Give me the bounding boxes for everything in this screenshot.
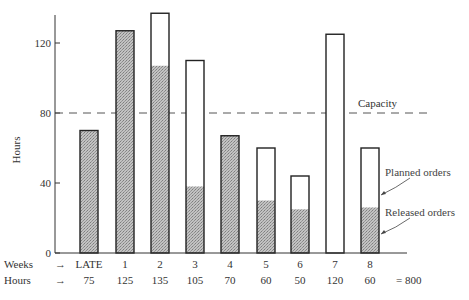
bar-week-7	[326, 34, 344, 253]
released-segment	[151, 66, 169, 253]
hours-value: 105	[187, 274, 204, 286]
hours-value: 120	[327, 274, 344, 286]
week-label: 5	[263, 258, 269, 270]
hours-value: 135	[152, 274, 169, 286]
week-label: 3	[192, 258, 198, 270]
hours-value: 125	[117, 274, 134, 286]
released-segment	[221, 136, 239, 253]
bar-week-late	[80, 131, 98, 254]
y-axis-ticks: 04080120	[35, 37, 61, 259]
y-axis-label: Hours	[10, 137, 22, 164]
hours-value: 70	[225, 274, 236, 286]
y-tick-label: 0	[46, 247, 52, 259]
bar-week-1	[116, 31, 134, 253]
released-segment	[116, 31, 134, 253]
y-tick-label: 120	[35, 37, 52, 49]
released-segment	[80, 131, 98, 254]
bar-week-3	[186, 61, 204, 254]
planned-orders-label: Planned orders	[385, 166, 451, 178]
week-label: 4	[227, 258, 233, 270]
hours-total: = 800	[396, 274, 421, 286]
capacity-label: Capacity	[358, 97, 398, 109]
hours-arrow-icon: →	[55, 274, 66, 286]
week-label: 6	[297, 258, 303, 270]
released-orders-label: Released orders	[385, 206, 455, 218]
released-segment	[291, 209, 309, 253]
week-label: 2	[157, 258, 163, 270]
y-tick-label: 40	[40, 177, 52, 189]
hours-value: 60	[365, 274, 376, 286]
weeks-row-label: Weeks	[4, 258, 33, 270]
weeks-arrow-icon: →	[55, 258, 66, 270]
hours-value: 75	[84, 274, 95, 286]
week-label: 8	[367, 258, 373, 270]
hours-value: 50	[295, 274, 306, 286]
released-segment	[257, 201, 275, 254]
week-label: 1	[122, 258, 128, 270]
week-label: 7	[332, 258, 338, 270]
bar-week-2	[151, 13, 169, 253]
bar-chart: 04080120 Hours Capacity	[0, 0, 469, 300]
released-segment	[361, 208, 379, 254]
bar-week-8	[361, 148, 379, 253]
bar-week-5	[257, 148, 275, 253]
bar-week-4	[221, 136, 239, 253]
bars	[80, 13, 379, 253]
hours-value: 60	[261, 274, 272, 286]
released-segment	[186, 187, 204, 254]
bar-week-6	[291, 176, 309, 253]
y-tick-label: 80	[40, 107, 52, 119]
hours-row-label: Hours	[4, 274, 31, 286]
week-label: LATE	[76, 258, 103, 270]
